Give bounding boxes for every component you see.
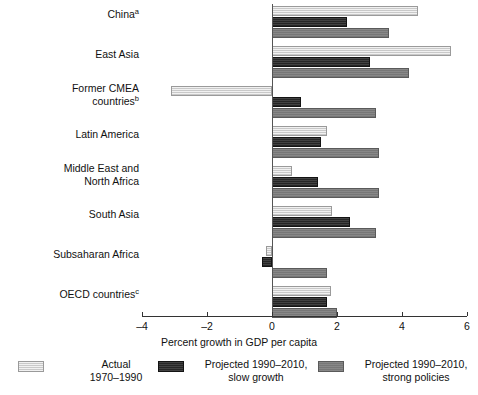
x-axis-tick [402,312,403,316]
bar-slow [272,17,347,27]
category-row: Middle East andNorth Africa [0,162,478,202]
bar-group [0,242,478,282]
bar-slow [272,97,301,107]
bar-slow [262,257,272,267]
legend-swatch-slow [158,361,184,372]
legend-swatch-actual [18,361,44,372]
category-row: Subsaharan Africa [0,242,478,282]
bar-group [0,122,478,162]
bar-actual [272,46,451,56]
category-row: Latin America [0,122,478,162]
bar-strong [272,188,379,198]
category-row: Former CMEAcountriesb [0,82,478,122]
chart-legend: Actual1970–1990Projected 1990–2010,slow … [0,358,478,392]
gdp-growth-bar-chart: ChinaaEast AsiaFormer CMEAcountriesbLati… [0,0,478,395]
bar-strong [272,28,389,38]
bar-slow [272,57,370,67]
bar-actual [171,86,272,96]
bar-group [0,2,478,42]
x-axis-tick-label: 2 [322,320,352,332]
bar-group [0,42,478,82]
category-row: South Asia [0,202,478,242]
zero-baseline [272,4,273,316]
bar-actual [272,126,327,136]
x-axis-tick [207,312,208,316]
bar-strong [272,148,379,158]
legend-swatch-strong [318,361,344,372]
bar-actual [272,166,292,176]
bar-actual [272,206,332,216]
x-axis-tick [272,312,273,316]
bar-group [0,202,478,242]
x-axis-title: Percent growth in GDP per capita [0,336,478,348]
bar-strong [272,268,327,278]
bar-strong [272,108,376,118]
bar-slow [272,177,318,187]
x-axis-tick-label: 0 [257,320,287,332]
bar-slow [272,137,321,147]
legend-label: Projected 1990–2010,strong policies [356,358,476,384]
bar-strong [272,68,409,78]
bar-actual [272,6,418,16]
bar-actual [272,286,331,296]
bar-group [0,82,478,122]
x-axis-tick-label: –2 [192,320,222,332]
x-axis-tick [142,312,143,316]
bar-group [0,162,478,202]
category-row: Chinaa [0,2,478,42]
x-axis-tick-label: 4 [387,320,417,332]
x-axis-tick [337,312,338,316]
x-axis-tick [467,312,468,316]
x-axis-tick-label: 6 [452,320,478,332]
bar-slow [272,297,327,307]
plot-area: ChinaaEast AsiaFormer CMEAcountriesbLati… [0,0,478,316]
x-axis-line [142,316,467,317]
category-row: East Asia [0,42,478,82]
x-axis-tick-label: –4 [127,320,157,332]
bar-strong [272,228,376,238]
legend-label: Projected 1990–2010,slow growth [196,358,316,384]
bar-slow [272,217,350,227]
